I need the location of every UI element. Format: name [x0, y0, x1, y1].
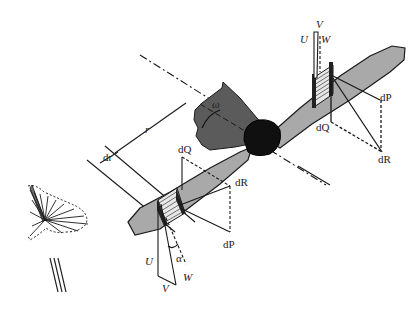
label-lower-U: U: [145, 255, 154, 267]
label-r: r: [145, 123, 150, 135]
label-upper-dQ: dQ: [316, 121, 330, 133]
label-lower-dR: dR: [235, 176, 249, 188]
parallel-flow-lines: [50, 258, 66, 292]
label-upper-U: U: [300, 33, 309, 45]
upper-velocity-triangle: [314, 32, 320, 78]
label-alpha: α: [176, 252, 182, 264]
propeller-diagram: ω r dr α V U W dP dQ dR dQ dR dP U W V: [0, 0, 416, 314]
label-lower-dP: dP: [223, 238, 235, 250]
lower-blade: [128, 147, 252, 235]
label-lower-dQ: dQ: [178, 143, 192, 155]
label-lower-W: W: [183, 271, 193, 283]
blade-section-sketch: [28, 185, 88, 240]
label-omega: ω: [212, 98, 220, 110]
hub: [244, 120, 281, 156]
label-upper-W: W: [321, 33, 331, 45]
label-dr: dr: [103, 151, 113, 163]
label-upper-dP: dP: [380, 91, 392, 103]
label-lower-V: V: [162, 282, 170, 294]
upper-force-vectors: [331, 76, 382, 152]
label-upper-dR: dR: [378, 153, 392, 165]
label-upper-V: V: [316, 18, 324, 30]
